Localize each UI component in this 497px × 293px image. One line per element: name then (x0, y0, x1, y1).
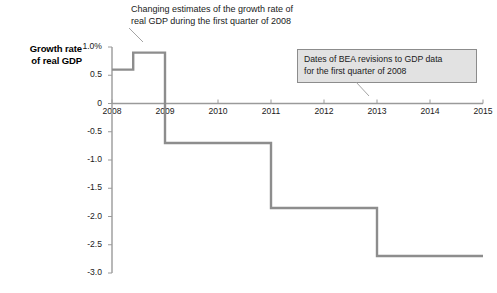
step-series-line (112, 53, 483, 256)
annotation-leader-line-top (129, 28, 143, 42)
plot-area (0, 0, 497, 293)
annotation-leader-line-boxed (356, 82, 369, 96)
chart-figure: Growth rate of real GDP Changing estimat… (0, 0, 497, 293)
